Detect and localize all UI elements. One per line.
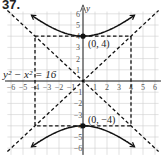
equation-label: y² − x² = 16 bbox=[2, 68, 57, 80]
svg-text:−6: −6 bbox=[74, 144, 83, 153]
svg-text:1: 1 bbox=[93, 83, 97, 92]
svg-text:6: 6 bbox=[153, 83, 157, 92]
y-axis-label: y bbox=[85, 3, 90, 13]
svg-text:2: 2 bbox=[105, 83, 109, 92]
svg-text:5: 5 bbox=[76, 21, 80, 30]
svg-text:−3: −3 bbox=[74, 111, 83, 120]
svg-text:3: 3 bbox=[76, 43, 80, 52]
svg-text:−2: −2 bbox=[74, 99, 83, 108]
svg-text:1: 1 bbox=[76, 66, 80, 75]
svg-text:−3: −3 bbox=[43, 83, 52, 92]
svg-text:−5: −5 bbox=[74, 133, 83, 142]
svg-text:−5: −5 bbox=[19, 83, 28, 92]
svg-text:2: 2 bbox=[76, 55, 80, 64]
svg-text:6: 6 bbox=[76, 10, 80, 19]
svg-text:−1: −1 bbox=[74, 88, 83, 97]
point-label: (0, −4) bbox=[88, 114, 115, 126]
svg-text:−2: −2 bbox=[55, 83, 64, 92]
svg-text:−6: −6 bbox=[7, 83, 16, 92]
svg-text:5: 5 bbox=[141, 83, 145, 92]
svg-text:3: 3 bbox=[117, 83, 121, 92]
point-label: (0, 4) bbox=[88, 38, 110, 50]
hyperbola-plot: −6−5−4−3−2−1123456654321−1−2−3−4−5−6 (0,… bbox=[0, 0, 161, 162]
